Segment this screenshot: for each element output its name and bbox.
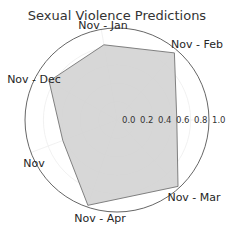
tick-0.2: 0.2 — [140, 115, 154, 125]
axis-label-nov-dec: Nov - Dec — [7, 73, 61, 86]
axis-label-nov-jan: Nov - Jan — [78, 19, 127, 32]
axis-label-nov-feb: Nov - Feb — [171, 38, 223, 51]
axis-label-nov-apr: Nov - Apr — [74, 212, 126, 225]
tick-0.0: 0.0 — [122, 115, 136, 125]
axis-label-nov: Nov — [23, 157, 45, 170]
axis-label-nov-mar: Nov - Mar — [167, 191, 221, 204]
tick-1.0: 1.0 — [212, 115, 226, 125]
tick-0.6: 0.6 — [176, 115, 190, 125]
data-polygon — [49, 45, 178, 206]
radar-chart: Sexual Violence Predictions 0.0 0.2 0.4 … — [0, 0, 235, 229]
tick-0.4: 0.4 — [158, 115, 172, 125]
tick-0.8: 0.8 — [194, 115, 208, 125]
